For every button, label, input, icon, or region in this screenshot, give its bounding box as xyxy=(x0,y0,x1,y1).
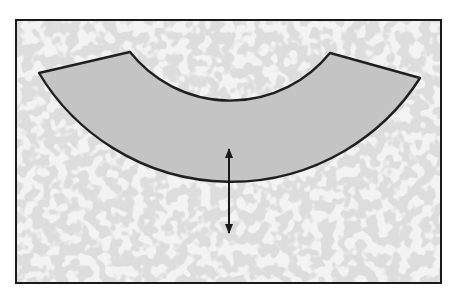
diagram-canvas xyxy=(0,0,451,290)
annulus-diagram xyxy=(0,0,451,290)
